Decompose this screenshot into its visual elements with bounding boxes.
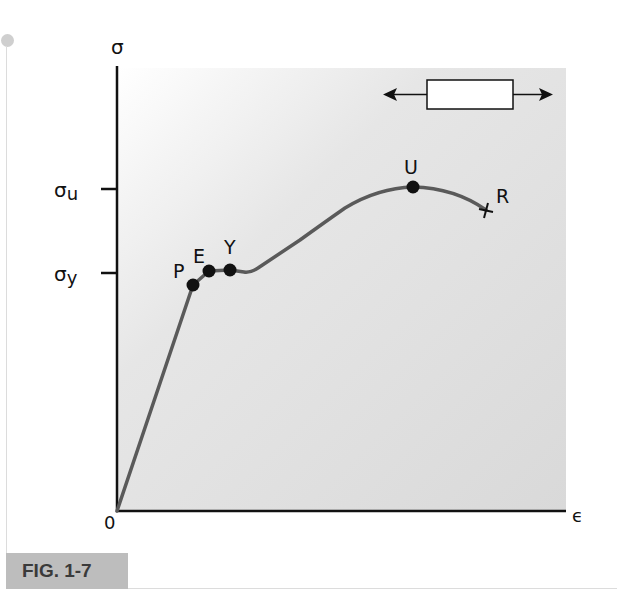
sigma-u-label: σu bbox=[54, 178, 78, 204]
point-r-label: R bbox=[496, 185, 509, 207]
point-e-label: E bbox=[193, 245, 205, 267]
origin-label: 0 bbox=[104, 512, 115, 533]
point-u-marker bbox=[407, 181, 420, 194]
point-p-marker bbox=[187, 279, 200, 292]
plot-background bbox=[118, 68, 566, 511]
point-y-marker bbox=[224, 264, 237, 277]
stress-strain-diagram: σ ϵ 0 σu σy P E Y U R bbox=[0, 0, 617, 604]
sigma-y-label: σy bbox=[54, 262, 78, 288]
point-u-label: U bbox=[404, 156, 418, 178]
y-axis-label: σ bbox=[111, 35, 124, 59]
figure-label: FIG. 1-7 bbox=[6, 553, 128, 589]
point-p-label: P bbox=[173, 260, 184, 282]
x-axis-label: ϵ bbox=[572, 505, 583, 526]
point-y-label: Y bbox=[223, 236, 236, 258]
